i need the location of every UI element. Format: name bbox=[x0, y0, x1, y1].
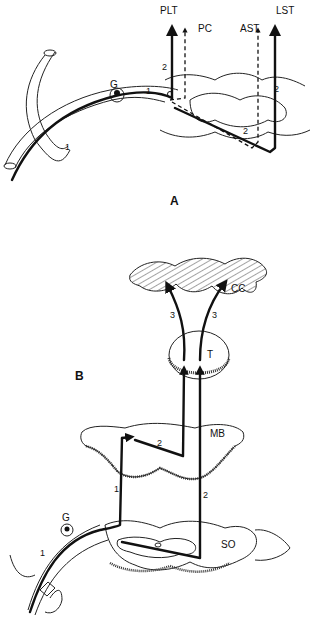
label-plt: PLT bbox=[160, 5, 178, 16]
label-neuron-2-cross: 2 bbox=[243, 126, 248, 136]
lst-fiber bbox=[175, 30, 275, 152]
panel-b: B CC T 3 3 MB SO G 1 1 bbox=[10, 258, 290, 615]
label-ast: AST bbox=[240, 23, 259, 34]
label-neuron-3-left: 3 bbox=[170, 310, 175, 320]
peripheral-nerve-outline bbox=[5, 86, 178, 168]
panel-a: PLT PC AST LST G 1 1 2 2 2 A bbox=[4, 5, 310, 208]
label-neuron-3-right: 3 bbox=[212, 310, 217, 320]
label-spinal: SO bbox=[221, 539, 236, 550]
label-cortex: CC bbox=[231, 283, 245, 294]
label-thalamus: T bbox=[207, 349, 213, 360]
nerve-outline-b bbox=[10, 525, 108, 615]
label-neuron-1-ascending: 1 bbox=[114, 484, 119, 494]
cerebral-cortex bbox=[130, 258, 267, 294]
label-ganglion-b: G bbox=[62, 512, 70, 523]
label-neuron-2-plt: 2 bbox=[162, 62, 167, 72]
panel-label-a: A bbox=[170, 194, 179, 208]
ganglion-cell-body-b bbox=[65, 527, 70, 532]
label-ganglion-a: G bbox=[110, 79, 118, 90]
nerve-cut-end bbox=[4, 163, 16, 169]
label-midbrain: MB bbox=[210, 428, 225, 439]
label-neuron-1-root-a: 1 bbox=[65, 142, 70, 152]
label-neuron-2-ascending: 2 bbox=[203, 490, 208, 500]
spinal-cord-outline-a bbox=[160, 73, 310, 139]
first-order-terminal-b bbox=[122, 437, 130, 438]
label-pc: PC bbox=[198, 23, 212, 34]
label-neuron-2-lst: 2 bbox=[274, 84, 279, 94]
vertebra-outline-b bbox=[40, 582, 62, 613]
neuroanatomy-diagram: PLT PC AST LST G 1 1 2 2 2 A B CC T 3 3 … bbox=[0, 0, 314, 619]
spinal-cord-b-tail bbox=[255, 530, 290, 561]
label-neuron-1-root-b: 1 bbox=[40, 548, 45, 558]
panel-label-b: B bbox=[75, 369, 84, 383]
label-neuron-2-mb: 2 bbox=[157, 438, 162, 448]
label-neuron-1-ganglion-a: 1 bbox=[146, 86, 151, 96]
label-lst: LST bbox=[276, 5, 294, 16]
